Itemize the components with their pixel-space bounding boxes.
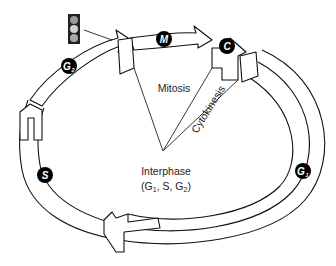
- band-m-block: [118, 38, 134, 74]
- traffic-light-top: [70, 16, 78, 24]
- badge-g1-label: G: [297, 166, 305, 177]
- band-g2-block: [20, 104, 42, 140]
- badge-s-label: S: [42, 170, 49, 181]
- cell-cycle-diagram: M C G 2 S G 1 Mitosis Cytokinesis Interp…: [0, 0, 336, 266]
- badge-g1-sub: 1: [305, 172, 308, 178]
- wedge-traffic-light: [84, 30, 112, 40]
- label-interphase: Interphase: [141, 165, 191, 177]
- badge-m: M: [156, 31, 172, 47]
- label-interphase-sub: (G1, S, G2): [141, 180, 191, 193]
- wedge-mitosis-left: [134, 68, 163, 151]
- badge-c: C: [219, 38, 235, 54]
- traffic-light-bottom: [70, 34, 78, 42]
- band-g1-start: [240, 52, 258, 82]
- badge-m-label: M: [160, 34, 169, 45]
- traffic-light-icon: [68, 14, 80, 44]
- label-mitosis: Mitosis: [158, 82, 191, 94]
- badge-g2-label: G: [63, 61, 71, 72]
- badge-g1: G 1: [295, 163, 311, 179]
- badge-s: S: [37, 167, 53, 183]
- badge-c-label: C: [223, 41, 231, 52]
- badge-g2-sub: 2: [70, 67, 74, 73]
- traffic-light-middle: [70, 25, 78, 33]
- label-cytokinesis: Cytokinesis: [189, 83, 228, 135]
- badge-g2: G 2: [61, 58, 77, 74]
